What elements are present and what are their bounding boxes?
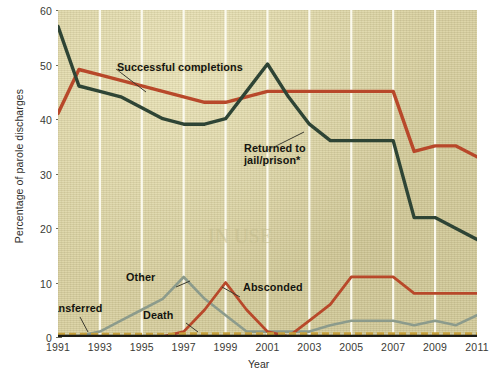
x-tick-label-1993: 1993	[80, 341, 120, 353]
x-tick-label-2011: 2011	[457, 341, 491, 353]
annotation-returned-line1: Returned to	[244, 142, 306, 154]
x-tick-label-2003: 2003	[289, 341, 329, 353]
leader-transferred	[80, 317, 88, 332]
annotation-absconded: Absconded	[243, 281, 303, 293]
watermark-text: IN USE	[208, 225, 272, 247]
x-tick-label-1991: 1991	[38, 341, 78, 353]
y-tick-label-10: 10	[26, 278, 52, 290]
annotation-other: Other	[126, 271, 155, 283]
x-tick-label-1997: 1997	[164, 341, 204, 353]
annotation-returned-line2: jail/prison*	[244, 154, 300, 166]
plot-area: IN USE Successful c	[58, 10, 477, 337]
y-tick-label-20: 20	[26, 223, 52, 235]
y-tick-label-50: 50	[26, 60, 52, 72]
x-tick-label-2007: 2007	[373, 341, 413, 353]
parole-discharges-line-chart: Percentage of parole discharges 60 50 40…	[0, 0, 491, 377]
y-tick-label-40: 40	[26, 114, 52, 126]
x-tick-label-1999: 1999	[206, 341, 246, 353]
y-tick-label-30: 30	[26, 169, 52, 181]
y-tick-label-60: 60	[26, 5, 52, 17]
annotation-transferred: Transferred	[58, 302, 103, 314]
series-line-death	[58, 334, 477, 335]
x-tick-label-2005: 2005	[331, 341, 371, 353]
annotation-successful-completions: Successful completions	[117, 61, 243, 73]
y-axis-title: Percentage of parole discharges	[13, 51, 25, 281]
x-tick-label-2001: 2001	[248, 341, 288, 353]
x-tick-label-2009: 2009	[415, 341, 455, 353]
x-tick-label-1995: 1995	[122, 341, 162, 353]
x-axis-title: Year	[248, 358, 269, 370]
annotation-death: Death	[143, 309, 174, 321]
y-tick-mark-0	[56, 337, 62, 338]
annotation-returned-to-jail-prison: Returned to jail/prison*	[244, 142, 306, 166]
